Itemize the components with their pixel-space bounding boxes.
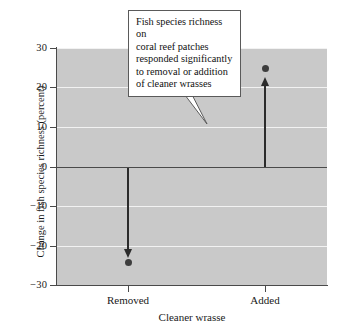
- y-axis-line: [56, 47, 57, 286]
- y-axis-title: Change in fish species richness (percent…: [35, 52, 46, 292]
- y-tick-30: [50, 48, 56, 49]
- y-tick-neg20: [50, 246, 56, 247]
- y-tick-neg10: [50, 206, 56, 207]
- y-tick-neg30: [50, 285, 56, 286]
- gridline-neg20: [57, 246, 327, 247]
- x-tick-label-added: Added: [210, 294, 320, 306]
- annotation-line-5: of cleaner wrasses: [136, 78, 234, 90]
- arrow-head-added: [261, 77, 269, 86]
- x-tick-added: [265, 286, 266, 292]
- annotation-line-4: to removal or addition: [136, 66, 234, 78]
- arrow-shaft-removed: [127, 168, 128, 251]
- gridline-neg10: [57, 206, 327, 207]
- annotation-line-2: coral reef patches: [136, 41, 234, 53]
- figure-panel: 30 20 10 0 −10 −20 −30 Change in fish sp…: [0, 0, 342, 330]
- y-tick-20: [50, 87, 56, 88]
- gridline-zero: [57, 167, 327, 168]
- arrow-head-removed: [124, 249, 132, 258]
- y-tick-0: [50, 167, 56, 168]
- x-axis-line: [56, 285, 328, 286]
- y-tick-10: [50, 127, 56, 128]
- annotation-line-1: Fish species richness on: [136, 16, 234, 41]
- x-tick-removed: [128, 286, 129, 292]
- x-tick-label-removed: Removed: [73, 294, 183, 306]
- arrow-shaft-added: [264, 85, 265, 167]
- x-axis-title: Cleaner wrasse: [57, 311, 327, 323]
- annotation-callout: Fish species richness on coral reef patc…: [128, 10, 241, 97]
- annotation-line-3: responded significantly: [136, 53, 234, 65]
- data-point-added: [262, 65, 269, 72]
- data-point-removed: [125, 259, 132, 266]
